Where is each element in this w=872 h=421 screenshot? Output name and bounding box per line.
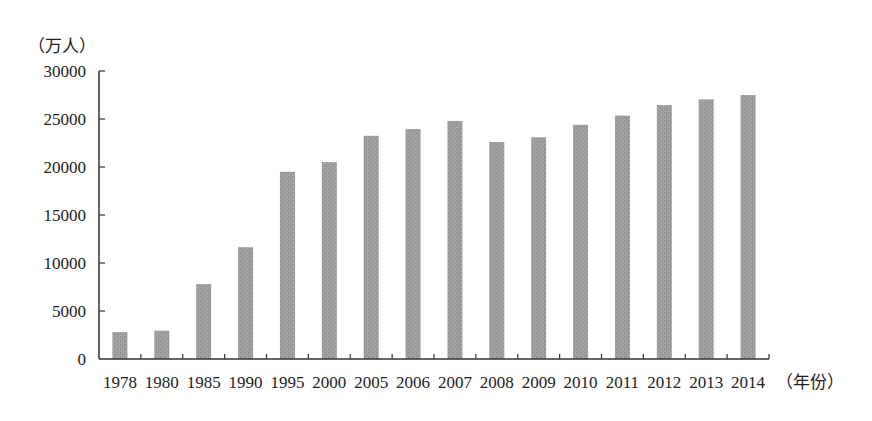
x-tick-label: 2013 [689,373,723,392]
y-tick-label: 10000 [44,254,87,273]
bar-1985 [196,284,211,359]
y-tick-label: 20000 [44,158,87,177]
bars [112,95,755,359]
x-tick-label: 2014 [731,373,766,392]
y-axis-ticks: 050001000015000200002500030000 [44,62,106,369]
x-tick-label: 2012 [647,373,681,392]
x-tick-label: 2008 [480,373,514,392]
bar-2014 [741,95,756,359]
bar-1978 [112,332,127,359]
x-tick-label: 2005 [354,373,388,392]
x-tick-label: 1978 [103,373,137,392]
x-tick-label: 1980 [145,373,179,392]
x-tick-label: 2000 [312,373,346,392]
x-tick-label: 2009 [522,373,556,392]
bar-2012 [657,105,672,359]
bar-1995 [280,172,295,359]
bar-2007 [447,121,462,359]
x-tick-label: 2011 [606,373,639,392]
bar-2013 [699,99,714,359]
bar-2009 [531,137,546,359]
bar-chart: （万人） 050001000015000200002500030000 1978… [0,0,872,421]
bar-2000 [322,162,337,359]
y-tick-label: 15000 [44,206,87,225]
x-tick-label: 1990 [229,373,263,392]
y-axis-unit-label: （万人） [28,36,96,56]
x-tick-label: 2007 [438,373,473,392]
x-tick-label: 2010 [564,373,598,392]
y-tick-label: 5000 [52,302,86,321]
bar-2005 [364,136,379,359]
y-tick-label: 30000 [44,62,87,81]
bar-2011 [615,116,630,359]
x-tick-label: 2006 [396,373,430,392]
x-tick-label: 1985 [187,373,221,392]
bar-1990 [238,247,253,359]
bar-1980 [154,331,169,359]
bar-2010 [573,125,588,359]
bar-2008 [489,142,504,359]
y-tick-label: 25000 [44,110,87,129]
bar-2006 [406,129,421,359]
x-axis-unit-label: （年份） [776,372,844,392]
x-tick-label: 1995 [270,373,304,392]
y-tick-label: 0 [78,350,87,369]
